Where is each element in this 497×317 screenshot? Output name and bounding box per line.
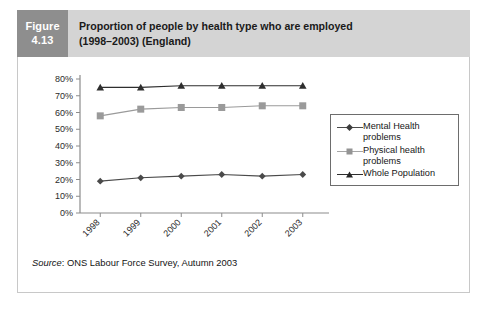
data-point-marker bbox=[178, 104, 185, 111]
x-tick-label: 2001 bbox=[202, 217, 223, 238]
data-point-marker bbox=[259, 102, 266, 109]
y-tick-label: 0% bbox=[60, 208, 73, 218]
data-point-marker bbox=[97, 178, 104, 185]
y-tick-label: 40% bbox=[55, 141, 73, 151]
data-point-marker bbox=[299, 102, 306, 109]
data-point-marker bbox=[137, 106, 144, 113]
data-point-marker bbox=[259, 173, 266, 180]
figure-title-line-2: (1998–2003) (England) bbox=[79, 34, 460, 49]
legend-label-mental-health: Mental Health problems bbox=[363, 121, 420, 143]
figure-header: Figure 4.13 Proportion of people by heal… bbox=[17, 10, 470, 57]
chart-series bbox=[96, 82, 306, 90]
source-label: Source bbox=[32, 257, 62, 268]
legend-label-physical-health: Physical health problems bbox=[363, 145, 425, 167]
y-tick-label: 30% bbox=[55, 158, 73, 168]
legend-item: Mental Health problems bbox=[331, 121, 458, 143]
y-tick-label: 80% bbox=[55, 74, 73, 84]
figure-body: 0%10%20%30%40%50%60%70%80% 1998199920002… bbox=[17, 57, 470, 293]
x-tick-label: 2003 bbox=[283, 217, 304, 238]
y-tick-label: 20% bbox=[55, 175, 73, 185]
y-tick-label: 70% bbox=[55, 91, 73, 101]
figure-title: Proportion of people by health type who … bbox=[68, 10, 470, 57]
data-point-marker bbox=[97, 112, 104, 119]
figure-number-badge: Figure 4.13 bbox=[17, 10, 68, 57]
chart-series bbox=[97, 171, 306, 185]
chart-legend: Mental Health problems Physical health p… bbox=[330, 114, 459, 186]
data-point-marker bbox=[218, 171, 225, 178]
data-point-marker bbox=[299, 171, 306, 178]
figure-container: Figure 4.13 Proportion of people by heal… bbox=[17, 10, 470, 293]
x-tick-label: 1998 bbox=[80, 217, 101, 238]
y-tick-label: 10% bbox=[55, 191, 73, 201]
x-tick-label: 2002 bbox=[242, 217, 263, 238]
y-tick-label: 60% bbox=[55, 108, 73, 118]
legend-label-whole-population: Whole Population bbox=[363, 168, 435, 179]
x-axis: 199819992000200120022003 bbox=[80, 213, 329, 239]
y-axis: 0%10%20%30%40%50%60%70%80% bbox=[55, 74, 80, 218]
source-note: Source: ONS Labour Force Survey, Autumn … bbox=[32, 257, 237, 268]
x-tick-label: 1999 bbox=[121, 217, 142, 238]
legend-marker-triangle-icon bbox=[337, 169, 363, 180]
legend-marker-square-icon bbox=[337, 146, 363, 157]
data-point-marker bbox=[137, 174, 144, 181]
source-text: : ONS Labour Force Survey, Autumn 2003 bbox=[62, 257, 237, 268]
x-tick-label: 2000 bbox=[161, 217, 182, 238]
y-tick-label: 50% bbox=[55, 124, 73, 134]
figure-number-value: 4.13 bbox=[32, 34, 54, 48]
figure-title-line-1: Proportion of people by health type who … bbox=[79, 19, 460, 34]
chart-series bbox=[97, 102, 307, 119]
legend-marker-diamond-icon bbox=[337, 122, 363, 133]
legend-item: Physical health problems bbox=[331, 145, 458, 167]
figure-number-label: Figure bbox=[25, 20, 59, 34]
chart-series-group bbox=[96, 82, 306, 184]
legend-item: Whole Population bbox=[331, 168, 458, 180]
data-point-marker bbox=[218, 104, 225, 111]
data-point-marker bbox=[178, 173, 185, 180]
